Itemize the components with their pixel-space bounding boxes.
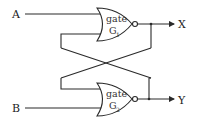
gate-g1-subscript: 1	[116, 31, 120, 38]
output-x-label: X	[178, 18, 186, 31]
gate-g2-subscript: 2	[116, 106, 120, 113]
output-y-label: Y	[177, 94, 186, 107]
gate-g1-word: gate	[106, 13, 128, 24]
gate-g2-inversion-bubble	[133, 97, 138, 102]
gate-g2-word: gate	[106, 88, 128, 99]
latch-diagram: A gate G 1 X B gate G 2 Y	[0, 0, 198, 119]
g1-feedback-input-wire	[61, 34, 101, 48]
gate-g1-inversion-bubble	[133, 22, 138, 27]
g2-feedback-input-wire	[61, 78, 101, 89]
input-b-label: B	[12, 102, 20, 115]
input-a-label: A	[11, 8, 21, 21]
